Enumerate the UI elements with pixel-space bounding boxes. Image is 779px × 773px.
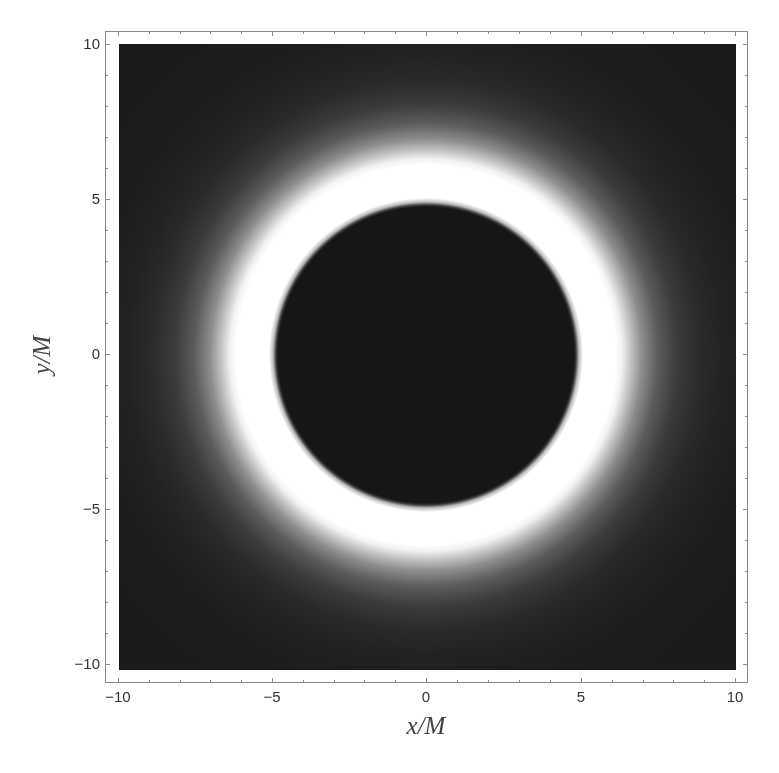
x-tick-mark (210, 31, 211, 34)
x-tick-mark (612, 680, 613, 683)
y-tick-label: 10 (60, 35, 100, 52)
y-tick-mark (745, 323, 748, 324)
x-tick-mark (180, 680, 181, 683)
x-tick-mark (581, 31, 582, 36)
x-tick-mark (550, 31, 551, 34)
x-tick-mark (735, 678, 736, 683)
x-tick-mark (303, 31, 304, 34)
y-tick-mark (745, 261, 748, 262)
x-tick-label: 10 (715, 688, 755, 705)
y-tick-mark (105, 137, 108, 138)
y-tick-mark (105, 354, 110, 355)
x-tick-mark (241, 31, 242, 34)
y-tick-mark (105, 540, 108, 541)
x-tick-mark (519, 31, 520, 34)
y-tick-mark (105, 602, 108, 603)
x-tick-mark (673, 31, 674, 34)
x-tick-mark (581, 678, 582, 683)
y-tick-mark (745, 385, 748, 386)
y-tick-label: 5 (60, 190, 100, 207)
y-tick-mark (745, 292, 748, 293)
x-tick-mark (272, 31, 273, 36)
x-tick-mark (149, 31, 150, 34)
y-tick-mark (745, 137, 748, 138)
y-tick-mark (745, 602, 748, 603)
y-tick-mark (105, 478, 108, 479)
y-tick-mark (743, 44, 748, 45)
y-tick-mark (743, 354, 748, 355)
y-tick-mark (745, 540, 748, 541)
black-hole-shadow-image (119, 44, 736, 670)
x-tick-mark (395, 680, 396, 683)
x-tick-mark (457, 680, 458, 683)
x-tick-mark (550, 680, 551, 683)
y-tick-mark (743, 664, 748, 665)
y-tick-mark (105, 571, 108, 572)
y-tick-mark (745, 106, 748, 107)
x-tick-mark (488, 680, 489, 683)
x-tick-mark (364, 680, 365, 683)
y-tick-mark (745, 633, 748, 634)
y-tick-mark (105, 633, 108, 634)
y-tick-mark (743, 199, 748, 200)
x-tick-mark (180, 31, 181, 34)
x-tick-mark (519, 680, 520, 683)
x-tick-mark (704, 31, 705, 34)
y-tick-mark (743, 509, 748, 510)
y-tick-mark (745, 447, 748, 448)
y-tick-mark (745, 75, 748, 76)
x-tick-mark (704, 680, 705, 683)
y-tick-mark (105, 75, 108, 76)
y-tick-mark (105, 106, 108, 107)
x-tick-label: −10 (98, 688, 138, 705)
y-tick-mark (105, 230, 108, 231)
y-tick-label: −10 (60, 655, 100, 672)
x-tick-mark (612, 31, 613, 34)
x-tick-mark (334, 680, 335, 683)
y-axis-label: y/M (28, 315, 56, 395)
y-tick-mark (105, 168, 108, 169)
y-tick-mark (745, 571, 748, 572)
y-tick-label: −5 (60, 500, 100, 517)
x-tick-mark (118, 31, 119, 36)
y-tick-mark (105, 323, 108, 324)
x-tick-label: 5 (561, 688, 601, 705)
y-tick-mark (105, 199, 110, 200)
y-tick-mark (105, 509, 110, 510)
x-tick-mark (426, 31, 427, 36)
x-tick-mark (272, 678, 273, 683)
x-tick-mark (457, 31, 458, 34)
x-tick-mark (149, 680, 150, 683)
y-tick-mark (105, 664, 110, 665)
y-tick-mark (745, 230, 748, 231)
y-tick-mark (105, 261, 108, 262)
x-tick-mark (735, 31, 736, 36)
y-tick-mark (105, 385, 108, 386)
x-tick-mark (364, 31, 365, 34)
x-tick-mark (241, 680, 242, 683)
y-tick-mark (105, 44, 110, 45)
x-axis-label: x/M (366, 712, 486, 740)
y-tick-mark (105, 447, 108, 448)
x-tick-mark (334, 31, 335, 34)
x-tick-label: 0 (406, 688, 446, 705)
y-tick-mark (745, 168, 748, 169)
x-tick-mark (643, 31, 644, 34)
y-tick-mark (745, 478, 748, 479)
x-tick-mark (303, 680, 304, 683)
x-tick-label: −5 (252, 688, 292, 705)
y-tick-mark (745, 416, 748, 417)
x-tick-mark (488, 31, 489, 34)
x-tick-mark (210, 680, 211, 683)
y-tick-label: 0 (60, 345, 100, 362)
x-tick-mark (673, 680, 674, 683)
x-tick-mark (643, 680, 644, 683)
x-tick-mark (395, 31, 396, 34)
image-noise (119, 44, 736, 670)
x-tick-mark (426, 678, 427, 683)
x-tick-mark (118, 678, 119, 683)
y-tick-mark (105, 292, 108, 293)
y-tick-mark (105, 416, 108, 417)
